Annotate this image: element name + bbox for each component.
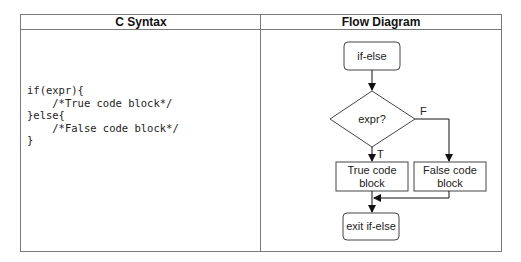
false-branch-label: F bbox=[420, 105, 427, 117]
true-block-label-line1: True code bbox=[347, 164, 396, 176]
false-block-node: False code block bbox=[414, 162, 486, 191]
arrow-false-path bbox=[415, 119, 449, 161]
decision-label: expr? bbox=[358, 113, 386, 125]
start-node: if-else bbox=[344, 42, 400, 70]
false-block-label-line1: False code bbox=[423, 164, 477, 176]
true-block-node: True code block bbox=[336, 162, 408, 191]
arrow-false-merge bbox=[374, 191, 449, 198]
exit-node: exit if-else bbox=[343, 213, 399, 240]
start-label: if-else bbox=[357, 50, 386, 62]
true-branch-label: T bbox=[377, 148, 384, 160]
false-block-label-line2: block bbox=[437, 177, 463, 189]
decision-node: expr? bbox=[330, 91, 415, 147]
flow-diagram: if-else expr? F T True code block False … bbox=[0, 0, 521, 262]
true-block-label-line2: block bbox=[359, 177, 385, 189]
exit-label: exit if-else bbox=[346, 220, 396, 232]
